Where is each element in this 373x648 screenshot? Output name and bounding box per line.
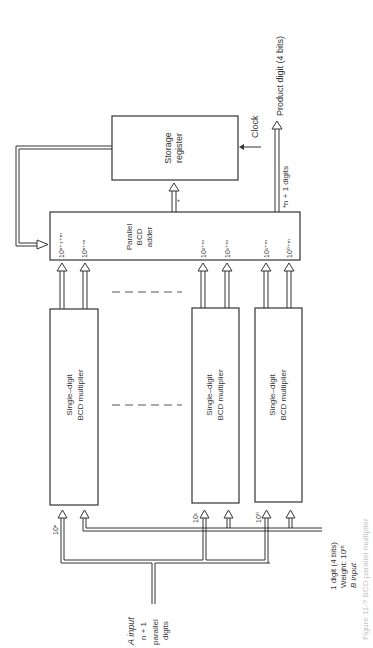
svg-text:BCD multiplier: BCD multiplier — [279, 369, 288, 420]
a-input-bus — [58, 510, 271, 604]
b-input-label: 1 digit (4 bits) Weight: 10ᵐ B input — [329, 542, 358, 590]
b-input-bus — [80, 510, 322, 531]
a-input-label: A input n + 1 parallel digits — [126, 617, 170, 646]
figure-caption: Figure 11-? BCD parallel multiplier — [361, 518, 370, 640]
svg-text:A input: A input — [126, 617, 136, 646]
svg-text:parallel: parallel — [151, 619, 160, 645]
multiplier-10n: Single–digit BCD multiplier 10ⁿ — [50, 309, 98, 535]
svg-text:n + 1: n + 1 — [139, 621, 148, 640]
svg-text:Clock: Clock — [250, 115, 260, 138]
svg-text:BCD multiplier: BCD multiplier — [216, 369, 225, 420]
svg-text:Figure 11-? BCD parallel multi: Figure 11-? BCD parallel multiplier — [361, 518, 370, 640]
svg-text:BCD: BCD — [135, 228, 144, 245]
svg-text:B input: B input — [349, 562, 358, 588]
svg-text:10⁰⁺ᵐ: 10⁰⁺ᵐ — [286, 239, 293, 258]
multiplier-10-0: Single–digit BCD multiplier 10⁰ — [255, 308, 302, 523]
svg-text:Storage: Storage — [163, 132, 173, 164]
svg-text:10ⁿ: 10ⁿ — [52, 524, 59, 535]
multiplier-to-adder-buses — [57, 263, 294, 309]
svg-text:10²⁺ᵐ: 10²⁺ᵐ — [200, 240, 207, 258]
svg-text:Single–digit: Single–digit — [65, 374, 74, 416]
parallel-bcd-adder: Parallel BCD adder 10ⁿ⁺¹⁺ᵐ 10ⁿ⁺ᵐ 10²⁺ᵐ 1… — [50, 212, 300, 260]
svg-text:Single–digit: Single–digit — [268, 374, 277, 416]
svg-text:Single–digit: Single–digit — [205, 374, 214, 416]
svg-text:digits: digits — [161, 621, 170, 640]
svg-text:10¹⁺ᵐ: 10¹⁺ᵐ — [263, 240, 270, 258]
svg-text:10ⁿ⁺ᵐ: 10ⁿ⁺ᵐ — [81, 240, 88, 258]
svg-text:BCD multiplier: BCD multiplier — [76, 369, 85, 420]
svg-text:10ⁿ⁺¹⁺ᵐ: 10ⁿ⁺¹⁺ᵐ — [58, 233, 65, 258]
svg-text:*n + 1 digits: *n + 1 digits — [281, 166, 290, 208]
adder-to-register-bus: * — [169, 183, 183, 212]
svg-text:Weight: 10ᵐ: Weight: 10ᵐ — [339, 545, 348, 588]
storage-register: Storage register — [112, 116, 238, 180]
svg-text:10¹⁺ᵐ: 10¹⁺ᵐ — [224, 240, 231, 258]
svg-text:1 digit (4 bits): 1 digit (4 bits) — [329, 542, 338, 590]
svg-text:Parallel: Parallel — [125, 223, 134, 250]
svg-text:10⁰: 10⁰ — [255, 512, 262, 523]
svg-text:adder: adder — [145, 226, 154, 247]
clock-signal: Clock — [239, 115, 261, 150]
svg-text:10¹: 10¹ — [192, 512, 199, 523]
multiplier-10-1: Single–digit BCD multiplier 10¹ — [192, 308, 239, 523]
svg-text:*: * — [176, 199, 183, 202]
svg-text:Product digit (4 bits): Product digit (4 bits) — [275, 36, 285, 116]
product-output-bus: Product digit (4 bits) *n + 1 digits — [272, 36, 290, 212]
svg-text:register: register — [174, 133, 184, 163]
ellipsis-dashes — [112, 292, 182, 405]
